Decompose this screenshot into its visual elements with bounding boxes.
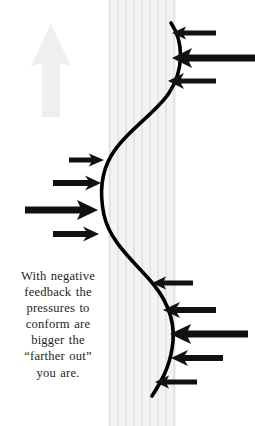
- caption-line-6: “farther out”: [2, 348, 114, 364]
- figure-canvas: With negative feedback the pressures to …: [0, 0, 255, 426]
- lower-right-arrow-1: [152, 277, 193, 290]
- caption-line-4: conform are: [2, 316, 114, 332]
- caption-block: With negative feedback the pressures to …: [2, 268, 114, 381]
- lower-right-arrow-5: [155, 376, 197, 389]
- caption-line-1: With negative: [2, 268, 114, 284]
- caption-line-2: feedback the: [2, 284, 114, 300]
- caption-line-5: bigger the: [2, 332, 114, 348]
- caption-line-3: pressures to: [2, 300, 114, 316]
- lower-right-arrow-2: [163, 302, 216, 318]
- caption-line-7: you are.: [2, 365, 114, 381]
- lower-right-arrow-4: [171, 350, 223, 366]
- lower-right-arrow-3: [170, 324, 248, 344]
